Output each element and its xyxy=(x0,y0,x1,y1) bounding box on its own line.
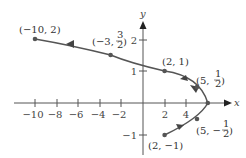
svg-text:4: 4 xyxy=(183,109,189,120)
svg-text:−1: −1 xyxy=(122,130,137,141)
svg-text:(−3,: (−3, xyxy=(92,36,114,47)
point-label-2-neg1: (2, −1) xyxy=(148,140,183,151)
x-tick-labels: −10 −8 −6 −4 −2 2 4 xyxy=(22,109,189,120)
direction-arrow-icon xyxy=(66,40,74,48)
svg-text:): ) xyxy=(221,75,225,86)
svg-text:−6: −6 xyxy=(69,109,84,120)
parametric-graph: x y −10 −8 −6 −4 −2 2 4 2 1 −1 xyxy=(0,0,246,158)
svg-text:−2: −2 xyxy=(112,109,127,120)
parametric-curve xyxy=(35,39,208,135)
point-label-5-half: (5, 1 2 ) xyxy=(196,68,225,89)
svg-text:): ) xyxy=(123,36,127,47)
svg-text:−4: −4 xyxy=(91,109,106,120)
svg-text:(5, −: (5, − xyxy=(196,125,221,136)
svg-text:1: 1 xyxy=(131,66,137,77)
y-tick-labels: 2 1 −1 xyxy=(122,35,137,141)
point-label-2-1: (2, 1) xyxy=(162,56,189,67)
point-label-5-neg-half: (5, − 1 2 ) xyxy=(196,118,233,139)
svg-text:−8: −8 xyxy=(48,109,63,120)
point-label-neg10-2: (−10, 2) xyxy=(19,24,61,35)
svg-text:−10: −10 xyxy=(22,109,43,120)
svg-text:2: 2 xyxy=(131,35,137,46)
svg-text:2: 2 xyxy=(162,109,168,120)
data-points xyxy=(33,37,210,138)
svg-text:): ) xyxy=(229,125,233,136)
y-axis-label: y xyxy=(139,8,146,19)
x-axis-label: x xyxy=(234,97,240,108)
point-label-neg3-3half: (−3, 3 2 ) xyxy=(92,29,127,50)
y-axis-arrow-icon xyxy=(140,21,147,29)
svg-text:(5,: (5, xyxy=(196,75,209,86)
x-axis-arrow-icon xyxy=(224,100,232,107)
